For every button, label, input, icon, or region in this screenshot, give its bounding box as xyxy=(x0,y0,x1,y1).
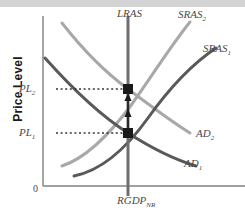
x-axis-title: RGDPNR xyxy=(117,195,155,209)
equilibrium-point-2 xyxy=(123,84,133,94)
tick-label-pl1: PL1 xyxy=(19,127,35,141)
curve-label-sras1: SRAS1 xyxy=(203,43,231,57)
origin-label: 0 xyxy=(33,183,38,194)
economics-as-ad-diagram: Price Level PL2 PL1 0 RGDPNR LRAS SRAS2 … xyxy=(0,0,245,214)
curve-label-ad2: AD2 xyxy=(196,128,214,142)
curve-label-ad1: AD1 xyxy=(184,158,202,172)
curve-label-sras2: SRAS2 xyxy=(178,9,206,23)
plot-canvas xyxy=(0,0,245,214)
tick-label-pl2: PL2 xyxy=(19,83,35,97)
equilibrium-point-1 xyxy=(123,128,133,138)
curve-label-lras: LRAS xyxy=(117,8,142,22)
